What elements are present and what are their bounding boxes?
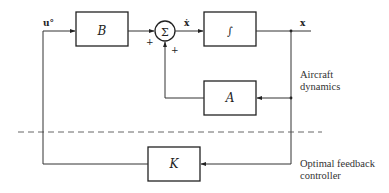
k-to-input-line xyxy=(43,31,148,164)
xdot-signal-label: ẋ xyxy=(184,18,190,28)
input-signal-label: u° xyxy=(43,18,54,28)
summer-label: Σ xyxy=(161,26,169,39)
plant-region-label: Aircraft dynamics xyxy=(300,69,340,92)
summer-sign-bottom: + xyxy=(171,45,179,55)
block-b-label: B xyxy=(97,24,107,38)
integrator-label: ∫ xyxy=(227,25,233,38)
block-diagram: u° B + Σ + ẋ ∫ x A Aircraft dynamics K O… xyxy=(0,0,389,193)
state-signal-label: x xyxy=(300,18,306,28)
controller-region-label: Optimal feedback controller xyxy=(300,158,378,181)
block-a-label: A xyxy=(225,91,235,105)
summer-sign-left: + xyxy=(146,37,154,47)
block-k-label: K xyxy=(169,157,180,171)
